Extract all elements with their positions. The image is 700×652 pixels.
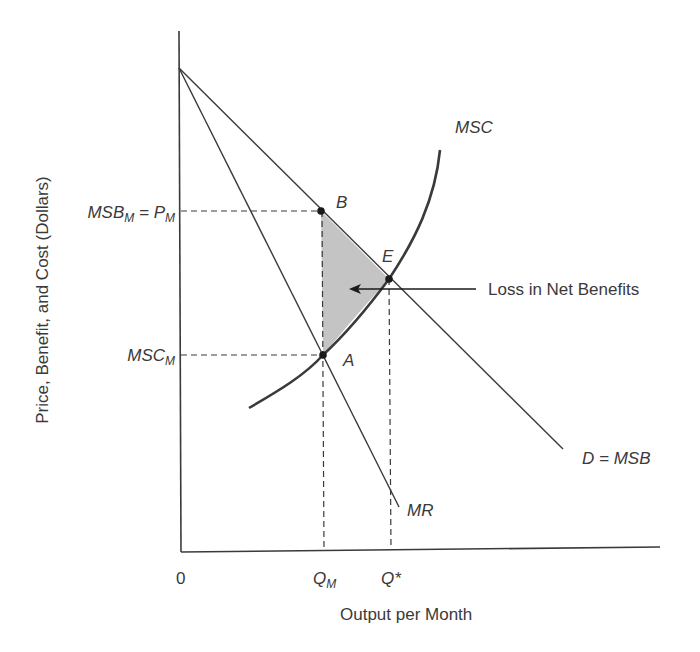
y-tick-msbm-pm: MSBM = PM [87,203,175,225]
mr-curve-label: MR [407,501,433,520]
point-b-label: B [336,193,347,212]
y-axis-title: Price, Benefit, and Cost (Dollars) [33,176,52,424]
x-axis [181,547,660,552]
point-e-marker [385,275,393,283]
deadweight-loss-area [321,211,389,355]
y-tick-mscm: MSCM [127,346,175,368]
msc-curve-label: MSC [455,118,494,137]
loss-annotation-label: Loss in Net Benefits [488,280,639,299]
x-tick-qstar: Q* [381,569,402,588]
origin-label: 0 [176,569,185,588]
x-axis-title: Output per Month [340,605,472,624]
diagram-canvas: MSC D = MSB MR B E A Loss in Net Benefit… [0,0,700,652]
point-a-marker [319,351,327,359]
point-b-marker [317,207,325,215]
point-a-label: A [342,351,354,370]
demand-msb-line [179,68,563,449]
y-axis [179,31,181,552]
dashed-guide-qstar [389,279,391,549]
demand-curve-label: D = MSB [582,449,651,468]
point-e-label: E [382,247,394,266]
x-tick-qm: QM [313,569,336,591]
